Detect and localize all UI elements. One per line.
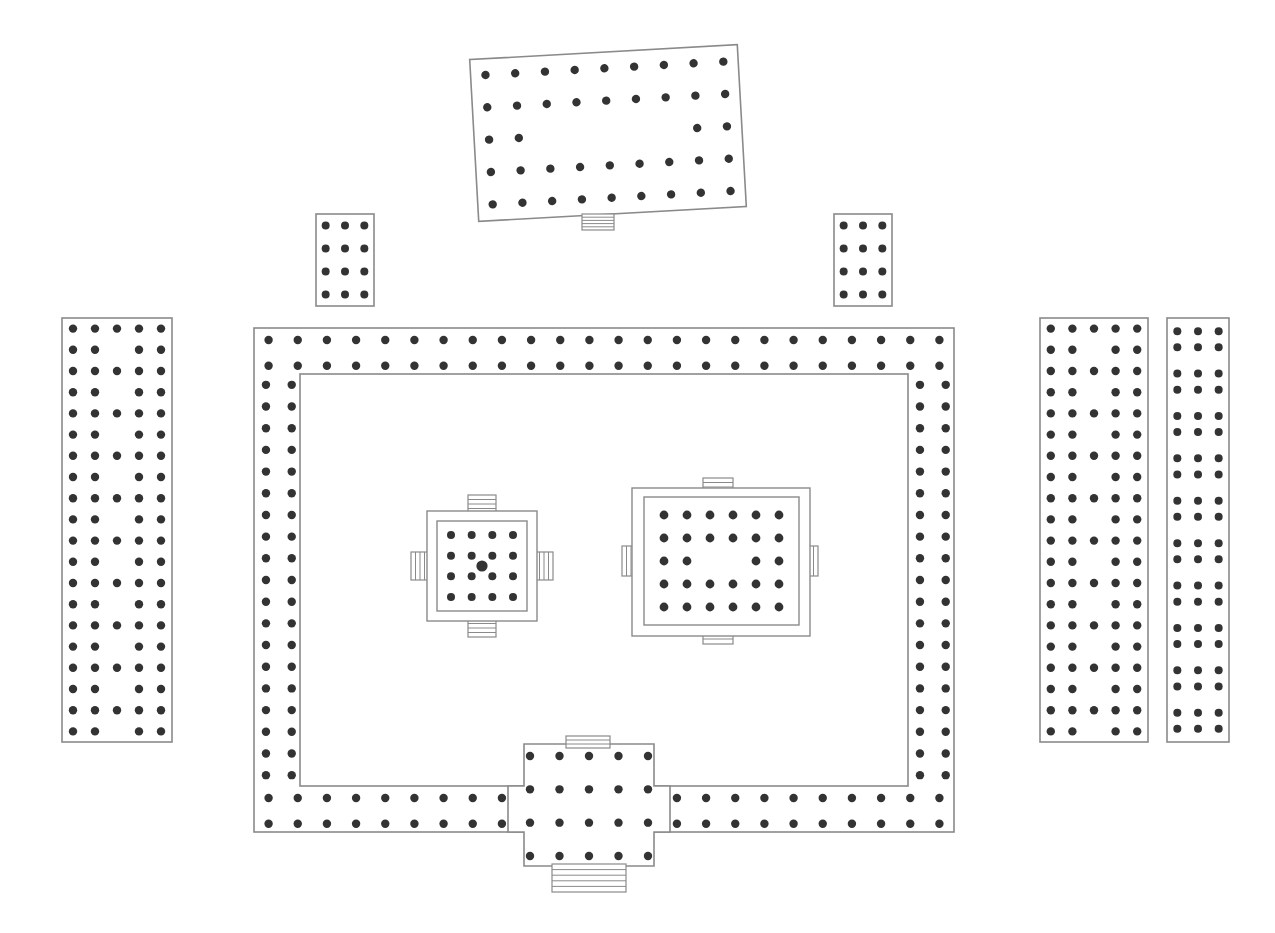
pillar-dot xyxy=(1111,642,1119,650)
pillar-dot xyxy=(1173,412,1181,420)
pillar-dot xyxy=(1194,640,1202,648)
pillar-dot-top xyxy=(877,362,885,370)
pillar-dot-right xyxy=(942,511,950,519)
pillar-dot xyxy=(91,515,99,523)
pillar-dot-left xyxy=(262,511,270,519)
pillar-dot-bottom xyxy=(819,820,827,828)
pillar-dot xyxy=(1047,579,1055,587)
pillar-dot xyxy=(1090,664,1098,672)
pillar-dot xyxy=(1068,473,1076,481)
pillar-dot xyxy=(706,603,715,612)
pillar-dot xyxy=(1194,370,1202,378)
pillar-dot xyxy=(91,706,99,714)
pillar-dot xyxy=(360,291,368,299)
pillar-dot-top xyxy=(498,362,506,370)
pillar-dot xyxy=(135,515,143,523)
pillar-dot xyxy=(1111,452,1119,460)
pillar-dot xyxy=(1047,621,1055,629)
pillar-dot xyxy=(729,603,738,612)
pillar-dot xyxy=(91,367,99,375)
pillar-dot xyxy=(135,579,143,587)
pillar-dot-left xyxy=(262,467,270,475)
pillar-dot xyxy=(1111,579,1119,587)
pillar-dot xyxy=(1047,727,1055,735)
pillar-dot-top xyxy=(352,362,360,370)
pillar-dot xyxy=(1133,727,1141,735)
pillar-dot xyxy=(683,534,692,543)
pillar-dot-top xyxy=(877,336,885,344)
pillar-dot xyxy=(1173,513,1181,521)
pillar-dot xyxy=(1133,367,1141,375)
pillar-dot-top xyxy=(731,362,739,370)
pillar-dot xyxy=(91,685,99,693)
pillar-dot-left xyxy=(288,576,296,584)
pillar-dot xyxy=(157,324,165,332)
pillar-dot xyxy=(1090,579,1098,587)
pillar-dot xyxy=(1215,412,1223,420)
pillar-dot xyxy=(1133,346,1141,354)
pillar-dot xyxy=(135,664,143,672)
pillar-dot-left xyxy=(288,749,296,757)
top-pavilion xyxy=(470,45,747,230)
pillar-dot-right xyxy=(942,576,950,584)
pillar-dot xyxy=(1068,600,1076,608)
floor-plan-canvas xyxy=(0,0,1275,933)
pillar-dot xyxy=(660,580,669,589)
pillar-dot-bottom xyxy=(848,794,856,802)
pillar-dot xyxy=(1047,706,1055,714)
pillar-dot-left xyxy=(262,424,270,432)
pillar-dot xyxy=(683,511,692,520)
pillar-dot-top xyxy=(789,362,797,370)
pillar-dot xyxy=(1068,642,1076,650)
pillar-dot xyxy=(1194,682,1202,690)
pillar-dot-left xyxy=(288,381,296,389)
porch-pillar-dot xyxy=(644,852,652,860)
pillar-dot xyxy=(1215,343,1223,351)
pillar-dot xyxy=(447,531,455,539)
pillar-dot-top xyxy=(819,336,827,344)
pillar-dot-bottom xyxy=(381,820,389,828)
pillar-dot xyxy=(1090,621,1098,629)
pillar-dot xyxy=(1215,624,1223,632)
porch-pillar-dot xyxy=(614,852,622,860)
pavilion-outline xyxy=(470,45,747,222)
pillar-dot xyxy=(157,473,165,481)
pillar-dot-bottom xyxy=(935,794,943,802)
pillar-dot xyxy=(1047,324,1055,332)
pillar-dot xyxy=(113,536,121,544)
pillar-dot-left xyxy=(262,771,270,779)
pillar-dot xyxy=(69,600,77,608)
pillar-dot-top xyxy=(760,362,768,370)
pillar-dot xyxy=(706,580,715,589)
pillar-dot xyxy=(447,593,455,601)
pillar-dot xyxy=(322,291,330,299)
pillar-dot xyxy=(1068,621,1076,629)
pillar-dot xyxy=(752,511,761,520)
porch-pillar-dot xyxy=(644,785,652,793)
pillar-dot-right xyxy=(916,446,924,454)
pillar-dot xyxy=(1194,497,1202,505)
pillar-dot xyxy=(1068,346,1076,354)
pillar-dot xyxy=(660,534,669,543)
pillar-dot-bottom xyxy=(702,820,710,828)
pillar-dot xyxy=(135,494,143,502)
pillar-dot-right xyxy=(916,511,924,519)
shrine-center-pillar xyxy=(476,560,487,571)
pillar-dot xyxy=(113,452,121,460)
pillar-dot xyxy=(1194,666,1202,674)
pillar-dot xyxy=(683,603,692,612)
pillar-dot xyxy=(1215,682,1223,690)
pillar-dot xyxy=(69,388,77,396)
pillar-dot-right xyxy=(942,619,950,627)
pillar-dot xyxy=(157,494,165,502)
pillar-dot xyxy=(69,409,77,417)
pillar-dot xyxy=(1194,598,1202,606)
pillar-dot xyxy=(341,222,349,230)
porch-pillar-dot xyxy=(585,852,593,860)
pillar-dot xyxy=(488,593,496,601)
pillar-dot xyxy=(1133,579,1141,587)
pillar-dot-right xyxy=(942,749,950,757)
pillar-dot-top xyxy=(760,336,768,344)
pillar-dot-top xyxy=(381,362,389,370)
pillar-dot xyxy=(1215,497,1223,505)
